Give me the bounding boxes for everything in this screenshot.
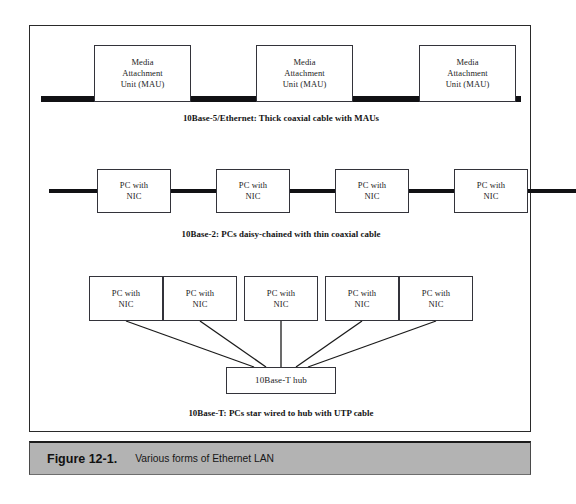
pc-box-star-2-label: PC with NIC: [184, 288, 216, 309]
mau-box-2: Media Attachment Unit (MAU): [256, 45, 353, 102]
pc-box-star-3-label: PC with NIC: [265, 288, 297, 309]
utp-wire-1: [126, 321, 254, 367]
pc-box-star-5-label: PC with NIC: [420, 288, 452, 309]
hub-box: 10Base-T hub: [226, 367, 336, 394]
figure-number: Figure 12-1.: [47, 452, 117, 466]
thin-coax-segment-3: [409, 189, 454, 193]
pc-box-star-5: PC with NIC: [399, 276, 473, 321]
pc-box-star-1: PC with NIC: [89, 276, 163, 321]
row-caption-10baseT: 10Base-T: PCs star wired to hub with UTP…: [30, 408, 532, 418]
row-caption-10base5: 10Base-5/Ethernet: Thick coaxial cable w…: [30, 113, 532, 123]
mau-box-3-label: Media Attachment Unit (MAU): [444, 57, 492, 89]
mau-box-2-label: Media Attachment Unit (MAU): [281, 57, 329, 89]
figure-caption-bar: Figure 12-1. Various forms of Ethernet L…: [29, 441, 531, 475]
pc-box-star-3: PC with NIC: [244, 276, 318, 321]
pc-box-star-4-label: PC with NIC: [346, 288, 378, 309]
hub-box-label: 10Base-T hub: [253, 375, 309, 386]
pc-box-chain-4: PC with NIC: [454, 169, 528, 213]
thin-coax-segment-2: [290, 189, 335, 193]
thin-coax-segment-left-stub: [49, 189, 97, 193]
pc-box-chain-1-label: PC with NIC: [118, 180, 150, 201]
mau-box-1-label: Media Attachment Unit (MAU): [119, 57, 167, 89]
thin-coax-segment-right-stub: [528, 189, 576, 193]
mau-box-3: Media Attachment Unit (MAU): [419, 45, 516, 102]
pc-box-chain-3: PC with NIC: [335, 169, 409, 213]
pc-box-chain-2-label: PC with NIC: [237, 180, 269, 201]
pc-box-chain-2: PC with NIC: [216, 169, 290, 213]
thin-coax-segment-1: [171, 189, 216, 193]
pc-box-star-1-label: PC with NIC: [110, 288, 142, 309]
pc-box-chain-3-label: PC with NIC: [356, 180, 388, 201]
row-caption-10base2: 10Base-2: PCs daisy-chained with thin co…: [30, 229, 532, 239]
mau-box-1: Media Attachment Unit (MAU): [94, 45, 191, 102]
pc-box-star-2: PC with NIC: [163, 276, 237, 321]
pc-box-chain-1: PC with NIC: [97, 169, 171, 213]
pc-box-chain-4-label: PC with NIC: [475, 180, 507, 201]
figure-title: Various forms of Ethernet LAN: [135, 453, 274, 464]
utp-wire-5: [308, 321, 436, 367]
pc-box-star-4: PC with NIC: [325, 276, 399, 321]
figure-border-frame: Media Attachment Unit (MAU) Media Attach…: [29, 25, 531, 432]
